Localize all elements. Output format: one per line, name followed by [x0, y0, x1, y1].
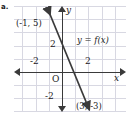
x-tick-label-neg2: -2: [30, 56, 39, 66]
problem-label: a.: [1, 3, 8, 12]
x-tick-label-2: 2: [85, 56, 91, 66]
point-label-lower-right: (3, -3): [76, 101, 102, 111]
y-tick-label-2: 2: [50, 39, 56, 49]
point-label-upper-left: (-1, 5): [16, 18, 42, 28]
x-axis-label: x: [114, 73, 119, 83]
y-tick-label-neg2: -2: [45, 91, 54, 101]
function-equation-label: y = f(x): [77, 35, 109, 45]
coordinate-plane: -2 2 2 -2 y x O (-1, 5) (3, -3) y = f(x): [14, 6, 126, 112]
origin-label: O: [52, 74, 59, 84]
y-axis-label: y: [66, 6, 71, 15]
figure-container: a.: [0, 0, 128, 116]
